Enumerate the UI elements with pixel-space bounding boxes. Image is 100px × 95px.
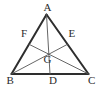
geometry-figure: A B C D E F G (0, 0, 100, 95)
triangle-sides (12, 15, 89, 75)
vertex-label-d: D (49, 75, 57, 86)
centroid-label-g: G (44, 54, 52, 65)
vertex-label-b: B (7, 75, 14, 86)
medians (12, 15, 89, 75)
vertex-label-f: F (21, 28, 27, 39)
median-ad (47, 15, 51, 75)
vertex-label-a: A (44, 2, 52, 13)
vertex-label-e: E (69, 28, 76, 39)
vertex-label-c: C (88, 75, 95, 86)
